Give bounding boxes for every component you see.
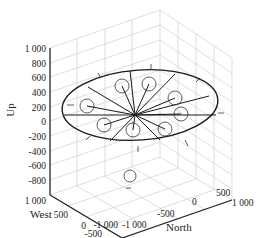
- ground-circle: [124, 170, 136, 182]
- svg-text:500: 500: [54, 210, 69, 220]
- svg-text:500: 500: [216, 188, 231, 198]
- svg-text:-1 000: -1 000: [122, 220, 147, 230]
- z-axis-ticks: 1 000 800 600 400 200 0 -200 -400 -600 -…: [25, 44, 47, 186]
- back-wall-grid: [50, 10, 232, 229]
- svg-text:-500: -500: [157, 209, 175, 219]
- svg-text:-600: -600: [29, 161, 47, 171]
- svg-text:1 000: 1 000: [25, 196, 47, 206]
- x-axis-label: North: [166, 221, 192, 233]
- svg-text:-1 000: -1 000: [93, 220, 118, 230]
- svg-text:1 000: 1 000: [25, 44, 47, 54]
- svg-text:-200: -200: [29, 132, 47, 142]
- svg-text:0: 0: [192, 197, 197, 207]
- svg-text:0: 0: [41, 117, 46, 127]
- svg-text:-800: -800: [29, 176, 47, 186]
- svg-text:1 000: 1 000: [232, 198, 254, 208]
- svg-text:-400: -400: [29, 147, 47, 157]
- z-axis-label: Up: [4, 103, 16, 117]
- svg-text:600: 600: [32, 73, 47, 83]
- svg-text:800: 800: [32, 59, 47, 69]
- svg-text:200: 200: [32, 103, 47, 113]
- svg-text:400: 400: [32, 88, 47, 98]
- 3d-plot: 1 000 800 600 400 200 0 -200 -400 -600 -…: [0, 0, 260, 238]
- outer-arrows: [67, 64, 224, 152]
- y-axis-label: West: [30, 208, 52, 220]
- svg-text:-500: -500: [85, 229, 103, 238]
